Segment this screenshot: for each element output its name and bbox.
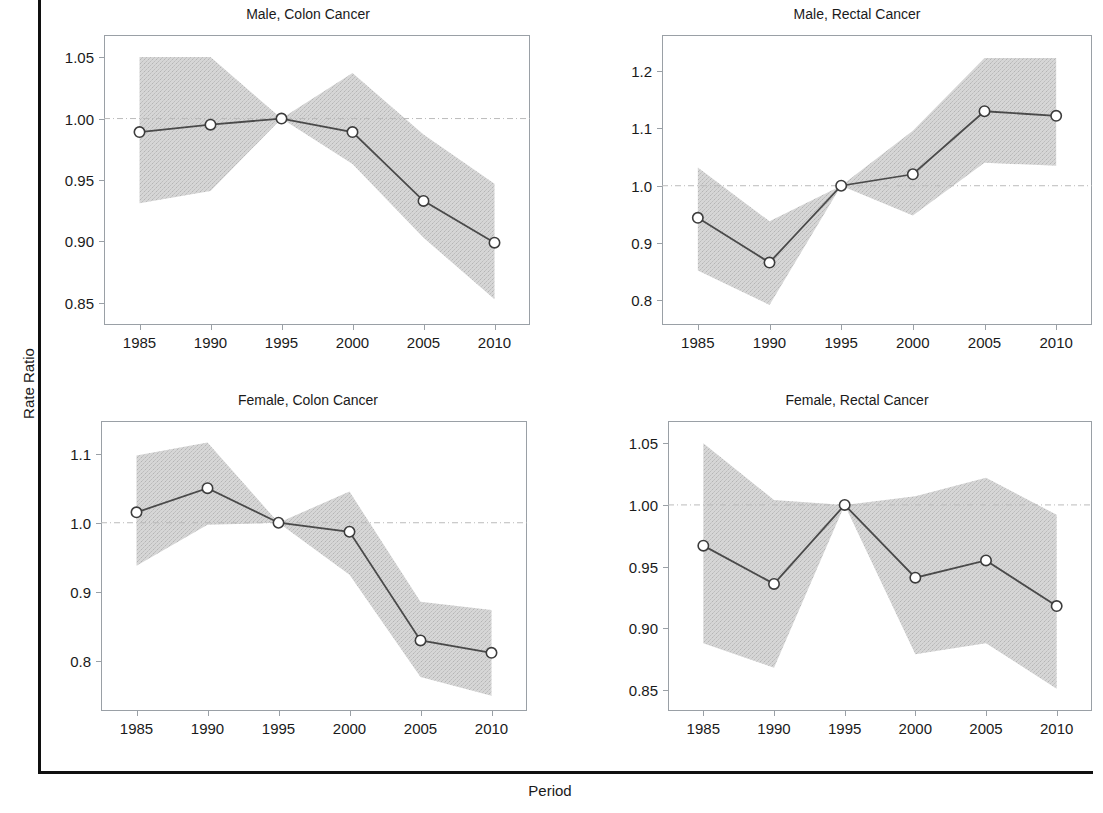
y-tick-mark <box>657 186 662 187</box>
y-tick-label: 1.1 <box>31 445 91 462</box>
x-tick-label: 2000 <box>896 334 929 351</box>
data-point-marker <box>910 573 920 583</box>
x-tick-mark <box>211 325 212 330</box>
data-point-marker <box>418 196 428 206</box>
y-tick-label: 0.9 <box>592 235 652 252</box>
y-tick-mark <box>663 443 668 444</box>
x-tick-label: 1995 <box>262 720 295 737</box>
x-tick-label: 2005 <box>968 334 1001 351</box>
data-point-marker <box>415 635 425 645</box>
panel-male-rectal: Male, Rectal Cancer 0.80.91.01.11.219851… <box>622 6 1092 356</box>
y-tick-mark <box>663 505 668 506</box>
x-tick-mark <box>841 325 842 330</box>
confidence-band <box>703 443 1056 689</box>
data-point-marker <box>273 518 283 528</box>
x-tick-mark <box>282 325 283 330</box>
panel-title: Female, Colon Cancer <box>58 392 558 408</box>
plot-svg <box>104 35 530 325</box>
y-tick-label: 0.95 <box>598 558 658 575</box>
x-tick-mark <box>703 711 704 716</box>
y-tick-label: 1.00 <box>34 110 94 127</box>
y-tick-mark <box>657 128 662 129</box>
data-point-marker <box>347 127 357 137</box>
figure-canvas: Rate Ratio Period Male, Colon Cancer 0.8… <box>0 0 1103 813</box>
x-tick-label: 1985 <box>120 720 153 737</box>
data-point-marker <box>764 257 774 267</box>
y-tick-mark <box>657 300 662 301</box>
x-tick-label: 2005 <box>404 720 437 737</box>
x-tick-label: 1990 <box>753 334 786 351</box>
x-tick-label: 1995 <box>828 720 861 737</box>
data-point-marker <box>908 169 918 179</box>
x-axis-label: Period <box>400 782 700 799</box>
x-tick-label: 1985 <box>123 334 156 351</box>
x-tick-label: 2000 <box>336 334 369 351</box>
x-tick-label: 1995 <box>825 334 858 351</box>
y-tick-label: 0.95 <box>34 172 94 189</box>
data-point-marker <box>489 237 499 247</box>
x-tick-mark <box>845 711 846 716</box>
x-tick-label: 1985 <box>687 720 720 737</box>
plot-area: 0.80.91.01.11.2198519901995200020052010 <box>662 35 1092 325</box>
x-tick-label: 1990 <box>194 334 227 351</box>
data-point-marker <box>836 181 846 191</box>
y-tick-label: 0.9 <box>31 584 91 601</box>
x-tick-mark <box>913 325 914 330</box>
x-tick-label: 2010 <box>1040 720 1073 737</box>
y-tick-label: 0.90 <box>34 233 94 250</box>
x-tick-mark <box>774 711 775 716</box>
y-tick-mark <box>99 241 104 242</box>
data-point-marker <box>202 483 212 493</box>
x-tick-label: 2005 <box>407 334 440 351</box>
y-tick-mark <box>99 303 104 304</box>
data-point-marker <box>839 500 849 510</box>
x-tick-mark <box>353 325 354 330</box>
plot-svg <box>668 421 1092 711</box>
panel-title: Female, Rectal Cancer <box>622 392 1092 408</box>
y-tick-mark <box>657 71 662 72</box>
panel-female-rectal: Female, Rectal Cancer 0.850.900.951.001.… <box>622 392 1092 742</box>
data-point-marker <box>131 507 141 517</box>
x-tick-label: 2010 <box>478 334 511 351</box>
x-tick-mark <box>424 325 425 330</box>
x-tick-label: 2010 <box>1040 334 1073 351</box>
x-tick-mark <box>986 711 987 716</box>
data-point-marker <box>981 555 991 565</box>
x-tick-label: 1990 <box>757 720 790 737</box>
y-tick-mark <box>99 57 104 58</box>
x-tick-label: 1995 <box>265 334 298 351</box>
y-tick-label: 1.05 <box>34 49 94 66</box>
x-tick-mark <box>1057 711 1058 716</box>
y-tick-label: 1.2 <box>592 63 652 80</box>
x-tick-mark <box>770 325 771 330</box>
y-tick-label: 1.0 <box>31 514 91 531</box>
y-tick-mark <box>663 628 668 629</box>
x-tick-label: 1985 <box>681 334 714 351</box>
x-tick-label: 2000 <box>899 720 932 737</box>
x-tick-mark <box>495 325 496 330</box>
y-tick-mark <box>96 523 101 524</box>
data-point-marker <box>1051 601 1061 611</box>
data-point-marker <box>1051 111 1061 121</box>
y-tick-label: 0.85 <box>34 294 94 311</box>
plot-svg <box>101 421 527 711</box>
x-tick-mark <box>140 325 141 330</box>
y-tick-label: 1.0 <box>592 177 652 194</box>
y-tick-mark <box>99 180 104 181</box>
data-point-marker <box>979 106 989 116</box>
x-tick-label: 2005 <box>969 720 1002 737</box>
plot-svg <box>662 35 1092 325</box>
y-tick-mark <box>663 567 668 568</box>
data-point-marker <box>344 527 354 537</box>
x-tick-label: 1990 <box>191 720 224 737</box>
data-point-marker <box>769 579 779 589</box>
x-tick-mark <box>137 711 138 716</box>
x-tick-mark <box>698 325 699 330</box>
data-point-marker <box>134 127 144 137</box>
y-tick-mark <box>96 661 101 662</box>
y-tick-mark <box>657 243 662 244</box>
x-tick-mark <box>208 711 209 716</box>
confidence-band <box>140 57 495 299</box>
plot-area: 0.850.900.951.001.0519851990199520002005… <box>668 421 1092 711</box>
y-tick-label: 0.8 <box>31 653 91 670</box>
